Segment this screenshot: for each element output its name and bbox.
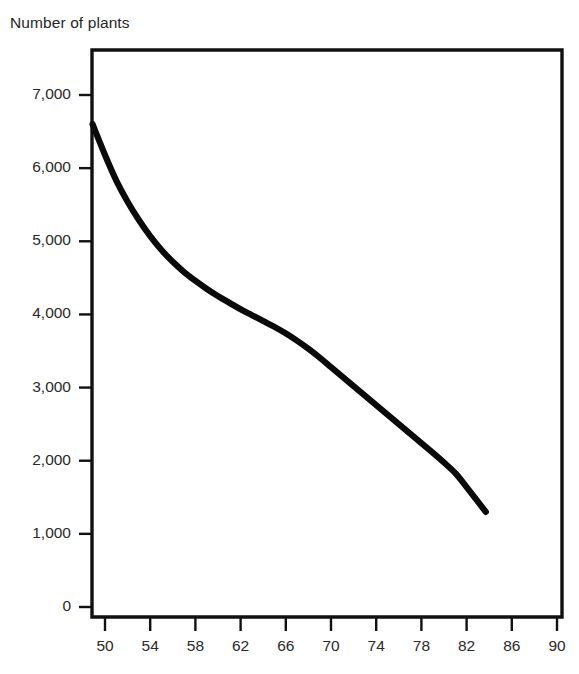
x-tick-label: 70 <box>311 637 351 655</box>
x-tick-label: 78 <box>401 637 441 655</box>
x-tick-label: 90 <box>537 637 577 655</box>
x-tick-label: 54 <box>130 637 170 655</box>
x-tick-label: 74 <box>356 637 396 655</box>
x-tick-label: 82 <box>447 637 487 655</box>
x-tick-label: 58 <box>175 637 215 655</box>
y-tick-label: 7,000 <box>1 85 71 103</box>
x-tick-label: 66 <box>266 637 306 655</box>
chart-figure: Number of plants 01,0002,0003,0004,0005,… <box>0 0 579 674</box>
y-tick-label: 2,000 <box>1 451 71 469</box>
x-axis-ticks <box>105 618 557 631</box>
y-tick-label: 3,000 <box>1 378 71 396</box>
y-axis-ticks <box>79 95 91 607</box>
data-curve-number-of-plants <box>93 124 486 512</box>
x-tick-label: 62 <box>221 637 261 655</box>
y-tick-label: 1,000 <box>1 524 71 542</box>
plot-canvas <box>0 0 579 674</box>
plot-frame <box>92 50 562 617</box>
y-tick-label: 4,000 <box>1 304 71 322</box>
y-tick-label: 0 <box>1 597 71 615</box>
x-tick-label: 86 <box>492 637 532 655</box>
y-tick-label: 6,000 <box>1 158 71 176</box>
x-tick-label: 50 <box>85 637 125 655</box>
y-tick-label: 5,000 <box>1 231 71 249</box>
